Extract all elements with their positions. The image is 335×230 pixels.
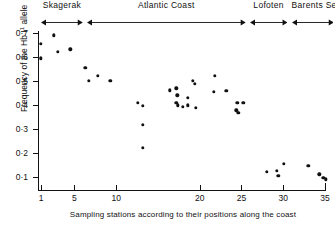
data-point xyxy=(109,79,112,82)
data-point xyxy=(265,170,268,173)
x-tick-label: 5 xyxy=(72,194,77,203)
data-point xyxy=(275,169,278,172)
region-lofoten: Lofoten xyxy=(250,0,288,30)
data-point xyxy=(186,96,189,99)
data-point xyxy=(39,56,42,59)
data-point xyxy=(56,50,59,53)
data-point xyxy=(212,90,215,93)
data-point xyxy=(84,66,87,69)
data-point xyxy=(193,82,196,85)
data-point xyxy=(225,89,228,92)
y-tick xyxy=(33,153,39,154)
data-point xyxy=(141,146,144,149)
data-point xyxy=(324,178,327,181)
figure-container: SkagerakAtlantic CoastLofotenBarents Sea… xyxy=(0,0,335,230)
y-tick xyxy=(33,177,39,178)
data-point xyxy=(52,34,55,37)
x-tick xyxy=(200,185,201,191)
x-tick xyxy=(241,185,242,191)
data-point xyxy=(236,111,239,114)
region-annotation-bar: SkagerakAtlantic CoastLofotenBarents Sea xyxy=(0,0,335,30)
data-point xyxy=(141,123,144,126)
x-tick xyxy=(116,185,117,191)
y-axis-title-superscript: 1 xyxy=(19,27,25,30)
region-atlantic-coast: Atlantic Coast xyxy=(87,0,246,30)
region-range-arrow xyxy=(292,18,334,27)
y-tick xyxy=(33,129,39,130)
x-tick-label: 35 xyxy=(320,194,329,203)
y-axis-title-base: Frequency of the Hb I xyxy=(19,30,29,112)
data-point xyxy=(186,104,189,107)
x-tick xyxy=(41,185,42,191)
data-point xyxy=(194,106,197,109)
y-tick xyxy=(33,33,39,34)
y-tick xyxy=(33,105,39,106)
y-axis-title: Frequency of the Hb I1 allele xyxy=(17,0,30,128)
region-range-arrow xyxy=(41,18,83,27)
data-point xyxy=(236,101,239,104)
data-point xyxy=(175,86,178,89)
y-axis-line xyxy=(38,31,39,191)
region-range-arrow xyxy=(87,18,246,27)
data-point xyxy=(307,164,310,167)
data-point xyxy=(176,104,179,107)
data-point xyxy=(181,105,184,108)
data-point xyxy=(168,88,171,91)
x-tick-label: 30 xyxy=(279,194,288,203)
data-point xyxy=(317,172,320,175)
data-point xyxy=(277,174,280,177)
data-point xyxy=(141,104,144,107)
y-tick-label: 0·2 xyxy=(0,149,28,158)
x-tick xyxy=(283,185,284,191)
x-tick xyxy=(74,185,75,191)
data-point xyxy=(69,48,72,51)
region-label: Lofoten xyxy=(250,0,288,10)
x-tick-label: 20 xyxy=(195,194,204,203)
x-axis-title: Sampling stations according to their pos… xyxy=(38,210,328,219)
region-range-arrow xyxy=(250,18,288,27)
data-point xyxy=(175,94,178,97)
data-point xyxy=(39,42,42,45)
data-point xyxy=(87,79,90,82)
y-tick-label: 0·1 xyxy=(0,173,28,182)
region-label: Barents Sea xyxy=(292,0,334,10)
y-tick xyxy=(33,57,39,58)
y-tick xyxy=(33,81,39,82)
x-tick-label: 1 xyxy=(39,194,44,203)
data-point xyxy=(136,101,139,104)
data-point xyxy=(241,101,244,104)
y-axis-title-tail: allele xyxy=(19,5,29,27)
region-label: Atlantic Coast xyxy=(87,0,246,10)
data-point xyxy=(282,162,285,165)
region-label: Skagerak xyxy=(41,0,83,10)
region-barents-sea: Barents Sea xyxy=(292,0,334,30)
data-point xyxy=(96,74,99,77)
x-tick-label: 10 xyxy=(111,194,120,203)
x-tick-label: 25 xyxy=(237,194,246,203)
data-point xyxy=(213,74,216,77)
region-skagerak: Skagerak xyxy=(41,0,83,30)
x-tick xyxy=(325,185,326,191)
